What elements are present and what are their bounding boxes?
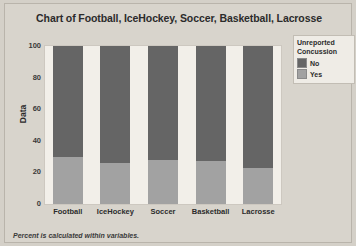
x-tick-label-soccer: Soccer: [140, 207, 186, 216]
bar-segment-yes[interactable]: [196, 161, 226, 204]
x-tick-label-icehockey: IceHockey: [92, 207, 138, 216]
bar-segment-no[interactable]: [53, 46, 83, 157]
chart-title: Chart of Football, IceHockey, Soccer, Ba…: [5, 12, 353, 24]
bar-segment-no[interactable]: [100, 46, 130, 163]
legend-label-no: No: [310, 60, 319, 67]
legend-swatch-yes: [297, 69, 307, 79]
bar-group-football[interactable]: [53, 46, 83, 204]
y-tick-label: 0: [9, 199, 41, 208]
legend: Unreported Concussion No Yes: [293, 35, 355, 84]
x-tick-label-basketball: Basketball: [188, 207, 234, 216]
bar-group-soccer[interactable]: [148, 46, 178, 204]
legend-title-line2: Concussion: [297, 48, 351, 57]
y-tick-label: 80: [9, 73, 41, 82]
bar-group-icehockey[interactable]: [100, 46, 130, 204]
x-tick-label-lacrosse: Lacrosse: [235, 207, 281, 216]
bar-segment-no[interactable]: [196, 46, 226, 161]
bar-group-lacrosse[interactable]: [243, 46, 273, 204]
y-tick-label: 60: [9, 104, 41, 113]
x-tick-label-football: Football: [45, 207, 91, 216]
chart-card: Chart of Football, IceHockey, Soccer, Ba…: [4, 3, 352, 243]
y-axis-tick-labels: 100 80 60 40 20 0: [5, 45, 41, 205]
legend-swatch-no: [297, 58, 307, 68]
bars-layer: [44, 46, 282, 204]
legend-title: Unreported Concussion: [297, 39, 351, 56]
bar-segment-no[interactable]: [243, 46, 273, 168]
legend-label-yes: Yes: [310, 71, 322, 78]
bar-segment-yes[interactable]: [100, 163, 130, 204]
bar-segment-yes[interactable]: [148, 160, 178, 204]
y-tick-label: 100: [9, 41, 41, 50]
y-tick-label: 40: [9, 136, 41, 145]
chart-footnote: Percent is calculated within variables.: [13, 232, 139, 239]
bar-segment-yes[interactable]: [243, 168, 273, 204]
y-tick-label: 20: [9, 167, 41, 176]
legend-item-no[interactable]: No: [297, 58, 351, 68]
bar-segment-no[interactable]: [148, 46, 178, 160]
legend-item-yes[interactable]: Yes: [297, 69, 351, 79]
bar-group-basketball[interactable]: [196, 46, 226, 204]
bar-segment-yes[interactable]: [53, 157, 83, 204]
x-axis-tick-labels: Football IceHockey Soccer Basketball Lac…: [44, 207, 282, 216]
legend-title-line1: Unreported: [297, 39, 351, 48]
